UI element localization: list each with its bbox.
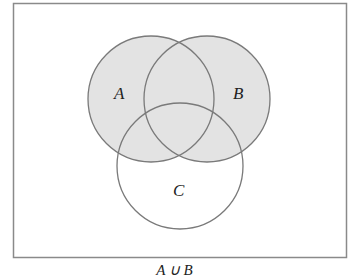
diagram-caption: A ∪ B bbox=[0, 261, 349, 279]
set-a-label: A bbox=[113, 84, 125, 103]
set-b-label: B bbox=[233, 84, 244, 103]
set-c-label: C bbox=[173, 181, 185, 200]
venn-diagram: A B C bbox=[0, 0, 349, 260]
